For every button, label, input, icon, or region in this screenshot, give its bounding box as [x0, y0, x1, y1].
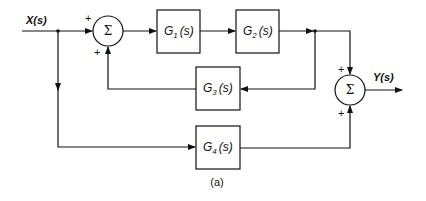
sum1-minus-sign: + — [94, 46, 100, 58]
summing-junction-2: Σ — [335, 75, 365, 105]
sigma-symbol-2: Σ — [346, 83, 354, 97]
g4-to-sum2-line — [240, 106, 350, 148]
sum1-plus-sign: + — [85, 12, 91, 24]
block-g3: G3(s) — [196, 67, 240, 110]
figure-caption: (a) — [210, 176, 223, 188]
svg-text:G3(s): G3(s) — [203, 81, 233, 97]
output-label: Y(s) — [373, 71, 394, 83]
block-g1: G1(s) — [157, 10, 200, 53]
sigma-symbol-1: Σ — [104, 24, 112, 38]
block-g4: G4(s) — [196, 126, 240, 169]
input-label: X(s) — [25, 14, 47, 26]
svg-text:G1(s): G1(s) — [164, 24, 194, 40]
feedforward-line-to-g4 — [58, 88, 195, 147]
block-diagram: X(s) Σ + + G1(s) G2(s) G3(s) G4(s) — [0, 0, 426, 201]
sum2-top-plus-sign: + — [338, 63, 344, 75]
block-g2: G2(s) — [236, 10, 279, 53]
svg-text:G2(s): G2(s) — [243, 24, 273, 40]
g2-to-sum2-line — [313, 31, 350, 74]
summing-junction-1: Σ — [93, 16, 123, 46]
svg-text:G4(s): G4(s) — [203, 140, 233, 156]
sum2-bottom-plus-sign: + — [338, 107, 344, 119]
